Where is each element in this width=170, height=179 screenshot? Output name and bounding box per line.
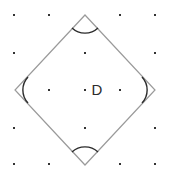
grid-dot bbox=[84, 52, 86, 54]
grid-dot bbox=[154, 127, 156, 129]
geometry-figure-panel: D bbox=[0, 0, 170, 179]
angle-arc-top bbox=[72, 28, 98, 33]
grid-dot bbox=[119, 14, 121, 16]
shape-label: D bbox=[92, 81, 103, 98]
dot-grid bbox=[13, 14, 156, 165]
grid-dot bbox=[13, 14, 15, 16]
grid-dot bbox=[48, 89, 50, 91]
grid-dot bbox=[84, 127, 86, 129]
grid-dot bbox=[119, 163, 121, 165]
grid-dot bbox=[13, 127, 15, 129]
grid-dot bbox=[154, 163, 156, 165]
grid-dot bbox=[48, 163, 50, 165]
grid-dot bbox=[119, 89, 121, 91]
grid-dot bbox=[13, 52, 15, 54]
grid-dot bbox=[84, 89, 86, 91]
shape-label-text: D bbox=[92, 81, 103, 98]
grid-dot bbox=[13, 163, 15, 165]
geometry-figure-canvas: D bbox=[0, 0, 170, 179]
grid-dot bbox=[48, 14, 50, 16]
angle-arc-bottom bbox=[72, 147, 98, 152]
grid-dot bbox=[154, 14, 156, 16]
grid-dot bbox=[154, 52, 156, 54]
